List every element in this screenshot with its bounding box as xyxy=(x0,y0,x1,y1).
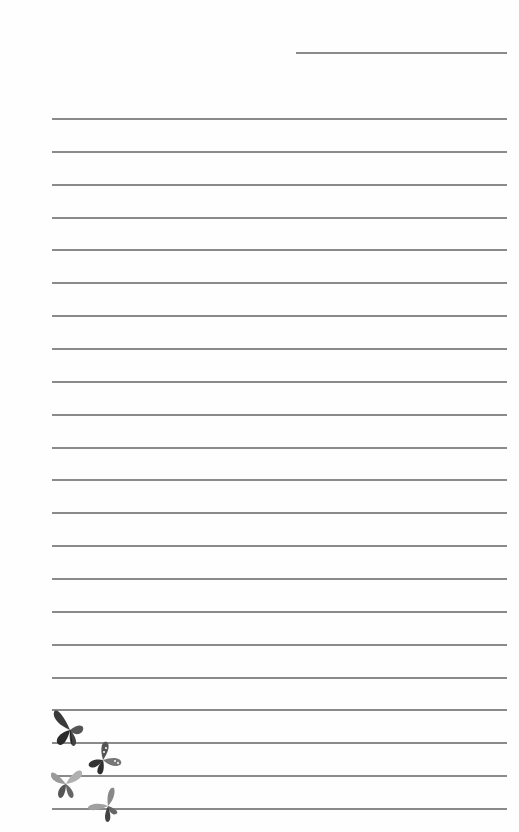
butterfly-icon xyxy=(52,708,90,748)
ruled-line xyxy=(52,447,507,449)
ruled-line xyxy=(52,151,507,153)
ruled-line xyxy=(52,414,507,416)
ruled-line xyxy=(52,217,507,219)
ruled-line xyxy=(52,644,507,646)
ruled-line xyxy=(52,479,507,481)
ruled-line xyxy=(52,545,507,547)
ruled-line xyxy=(52,578,507,580)
ruled-line xyxy=(52,348,507,350)
header-line xyxy=(296,52,507,54)
ruled-line xyxy=(52,709,507,711)
ruled-line xyxy=(52,249,507,251)
ruled-line xyxy=(52,118,507,120)
ruled-line xyxy=(52,315,507,317)
ruled-line xyxy=(52,282,507,284)
butterfly-icon xyxy=(50,768,84,800)
lined-stationery-page xyxy=(0,0,519,832)
butterfly-icon xyxy=(86,786,122,826)
butterfly-icon xyxy=(87,740,125,778)
ruled-line xyxy=(52,611,507,613)
ruled-line xyxy=(52,381,507,383)
ruled-line xyxy=(52,512,507,514)
ruled-line xyxy=(52,677,507,679)
ruled-line xyxy=(52,184,507,186)
